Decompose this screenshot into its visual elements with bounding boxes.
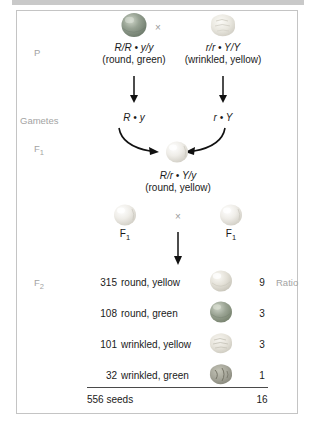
- top-gray-strip: [12, 0, 304, 5]
- f2-description-3: wrinkled, yellow: [121, 339, 191, 350]
- arrow-down-right-gametes: [217, 76, 229, 104]
- dihybrid-cross-figure: P Gametes F1 F2 ×: [0, 0, 316, 425]
- seed-f2-wrinkled-green: [208, 362, 234, 386]
- f1-label-right-sub: 1: [232, 233, 236, 242]
- row-label-p: P: [34, 47, 40, 58]
- seed-round-green-parent: [119, 12, 149, 38]
- f2-count-2: 108: [87, 308, 117, 319]
- cross-symbol-p: ×: [155, 22, 161, 33]
- arrow-down-left-gametes: [128, 76, 140, 104]
- f2-count-1: 315: [87, 277, 117, 288]
- parent-left-genotype: R/R • y/y: [114, 42, 153, 53]
- parent-right-phenotype: (wrinkled, yellow): [185, 54, 262, 65]
- gamete-left: R • y: [123, 112, 144, 123]
- seed-wrinkled-yellow-parent: [208, 12, 238, 38]
- f2-total-label: 556 seeds: [87, 394, 133, 405]
- f2-ratio-2: 3: [255, 308, 269, 319]
- f2-total-ratio: 16: [254, 394, 270, 405]
- row-label-f1: F1: [34, 143, 44, 157]
- f2-description-4: wrinkled, green: [121, 370, 189, 381]
- f1-label-left-sub: 1: [126, 233, 130, 242]
- seed-f1-left: [112, 203, 138, 227]
- row-label-f1-sub: 1: [40, 148, 44, 157]
- figure-panel: [16, 10, 298, 414]
- f2-ratio-4: 1: [255, 370, 269, 381]
- seed-f1-round-yellow: [164, 140, 190, 164]
- ratio-column-header: Ratio: [276, 277, 298, 288]
- f2-count-4: 32: [87, 370, 117, 381]
- seed-f2-wrinkled-yellow: [208, 331, 234, 355]
- parent-left-phenotype: (round, green): [102, 54, 165, 65]
- f1-label-right: F1: [226, 228, 236, 242]
- f2-description-1: round, yellow: [121, 277, 180, 288]
- f1-phenotype: (round, yellow): [145, 182, 211, 193]
- f1-label-left: F1: [120, 228, 130, 242]
- f2-ratio-3: 3: [255, 339, 269, 350]
- row-label-f2-sub: 2: [40, 282, 44, 291]
- arrow-curve-left-f1: [112, 126, 164, 160]
- seed-f1-right: [218, 203, 244, 227]
- f2-ratio-1: 9: [255, 277, 269, 288]
- table-rule: [87, 387, 268, 388]
- seed-f2-round-green: [208, 300, 234, 324]
- f2-description-2: round, green: [121, 308, 178, 319]
- arrow-down-f2: [172, 232, 184, 266]
- f2-count-3: 101: [87, 339, 117, 350]
- gamete-right: r • Y: [214, 112, 233, 123]
- row-label-f2: F2: [34, 277, 44, 291]
- cross-symbol-f1: ×: [175, 211, 181, 222]
- seed-f2-round-yellow: [208, 269, 234, 293]
- row-label-gametes: Gametes: [20, 115, 59, 126]
- f1-genotype: R/r • Y/y: [160, 170, 197, 181]
- parent-right-genotype: r/r • Y/Y: [206, 42, 240, 53]
